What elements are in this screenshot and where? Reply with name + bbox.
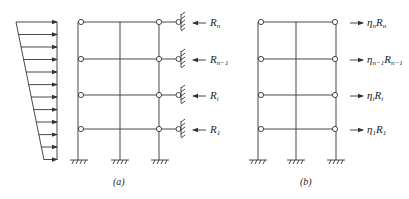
force-label-n: ηnRn [367,17,386,30]
frame-diagram [0,0,409,199]
reaction-label-n: Rn [210,17,220,30]
reaction-label-n-1: Rn−1 [210,54,228,67]
structural-frame-figure: Rn Rn−1 Ri R1 ηnRn ηn−1Rn−1 ηiRi η1R1 (a… [0,0,409,199]
fixed-supports-a [70,160,169,164]
frame-a [70,12,206,164]
force-label-n-1: ηn−1Rn−1 [367,54,403,67]
fixed-supports-b [249,160,345,164]
trapezoidal-load-diagram [16,22,57,160]
reaction-label-1: R1 [210,124,220,137]
force-label-i: ηiRi [367,90,383,103]
reaction-label-i: Ri [210,90,219,103]
frame-b [249,19,363,164]
force-label-1: η1R1 [367,124,386,137]
caption-a: (a) [113,176,125,187]
caption-b: (b) [300,176,312,187]
lateral-restraints [181,12,185,138]
